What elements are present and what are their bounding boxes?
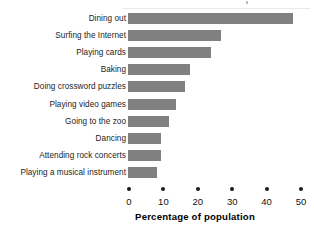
x-axis-title-text: Percentage of population: [135, 211, 255, 222]
bar-category-label: Playing video games: [49, 99, 126, 110]
x-axis-tick-label: 10: [151, 196, 175, 208]
bar-category-label: Doing crossword puzzles: [34, 81, 126, 92]
bar: [128, 99, 176, 110]
bar-category-label: Dancing: [96, 133, 126, 144]
bar-chart: Dining outSurfing the InternetPlaying ca…: [0, 0, 314, 233]
bar-category-label: Playing cards: [76, 47, 126, 58]
x-axis-tick-label: 50: [289, 196, 313, 208]
bar-row: Attending rock concerts: [0, 150, 314, 161]
x-axis-tick-dot: [196, 187, 200, 191]
x-axis-tick-labels: 01020304050: [0, 196, 314, 208]
x-axis-ticks: [0, 187, 314, 194]
bar-category-label: Dining out: [89, 13, 126, 24]
bar-category-label: Going to the zoo: [65, 116, 126, 127]
bar: [128, 64, 190, 75]
x-axis-tick-dot: [230, 187, 234, 191]
bar-category-label: Attending rock concerts: [39, 150, 126, 161]
x-axis-tick-label: 40: [255, 196, 279, 208]
bar-row: Baking: [0, 64, 314, 75]
bar-row: Dining out: [0, 13, 314, 24]
x-axis-tick-label: 20: [186, 196, 210, 208]
bar: [128, 167, 157, 178]
bar-category-label: Baking: [101, 64, 126, 75]
bar-row: Going to the zoo: [0, 116, 314, 127]
bar-row: Playing video games: [0, 99, 314, 110]
bar-row: Dancing: [0, 133, 314, 144]
bar: [128, 47, 211, 58]
bar-row: Doing crossword puzzles: [0, 81, 314, 92]
x-axis-tick-dot: [299, 187, 303, 191]
bar-row: Playing a musical instrument: [0, 167, 314, 178]
bar-category-label: Surfing the Internet: [55, 30, 126, 41]
bar: [128, 116, 169, 127]
bar: [128, 150, 161, 161]
x-axis-tick-label: 30: [220, 196, 244, 208]
bar: [128, 13, 293, 24]
bar-row: Surfing the Internet: [0, 30, 314, 41]
x-axis-title: Percentage of population: [0, 211, 314, 222]
bar: [128, 133, 161, 144]
bar-category-label: Playing a musical instrument: [20, 167, 126, 178]
bar: [128, 30, 221, 41]
x-axis-tick-label: 0: [117, 196, 141, 208]
x-axis-tick-dot: [161, 187, 165, 191]
x-axis-tick-dot: [127, 187, 131, 191]
x-axis-tick-dot: [265, 187, 269, 191]
bar: [128, 81, 185, 92]
bar-row: Playing cards: [0, 47, 314, 58]
